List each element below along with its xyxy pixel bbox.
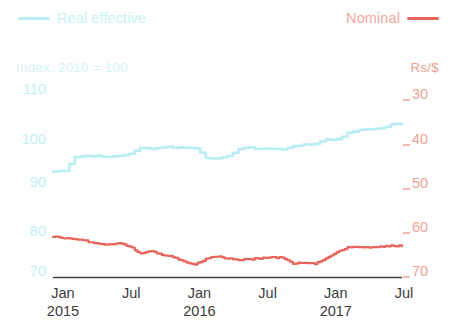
plot-area	[0, 0, 453, 326]
series-line-nominal	[53, 237, 402, 265]
series-line-real-effective	[53, 124, 402, 172]
exchange-rate-chart: Real effective Nominal Index, 2010 = 100…	[0, 0, 453, 326]
